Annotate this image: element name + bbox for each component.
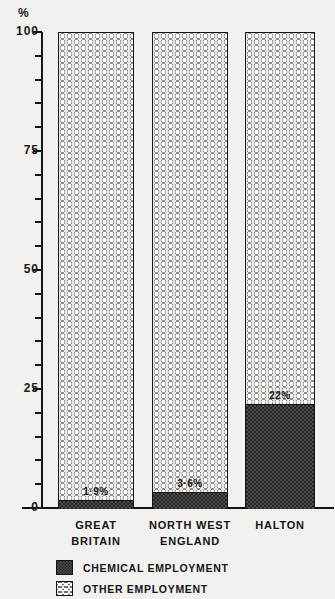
bar-north-west-england[interactable] bbox=[152, 32, 228, 508]
y-axis-minor-tick bbox=[35, 436, 42, 438]
x-axis-label-halton: HALTON bbox=[223, 517, 335, 533]
y-axis-minor-tick bbox=[35, 483, 42, 485]
y-axis-minor-tick bbox=[35, 174, 42, 176]
x-axis-label-line: HALTON bbox=[223, 517, 335, 533]
bars-plot-area: 1·9%3·6%22% bbox=[0, 0, 335, 599]
y-axis-minor-tick bbox=[35, 126, 42, 128]
y-axis-minor-tick bbox=[35, 102, 42, 104]
bar-halton[interactable] bbox=[245, 32, 315, 508]
x-axis-label-line: ENGLAND bbox=[130, 533, 250, 549]
bar-great-britain[interactable] bbox=[58, 32, 134, 508]
bar-value-label: 1·9% bbox=[58, 486, 134, 497]
legend-swatch-other-icon bbox=[56, 581, 73, 596]
bar-segment-chemical-employment[interactable] bbox=[153, 492, 227, 509]
legend-item-chemical-employment[interactable]: CHEMICAL EMPLOYMENT bbox=[56, 558, 229, 577]
legend-swatch-chemical-icon bbox=[56, 560, 73, 575]
y-axis-unit-label: % bbox=[18, 6, 29, 20]
y-axis-minor-tick bbox=[35, 79, 42, 81]
chart-legend: CHEMICAL EMPLOYMENT OTHER EMPLOYMENT bbox=[56, 558, 229, 599]
legend-label-other-employment: OTHER EMPLOYMENT bbox=[83, 583, 208, 595]
y-axis-minor-tick bbox=[35, 293, 42, 295]
y-axis-minor-tick bbox=[35, 245, 42, 247]
bar-segment-other-employment[interactable] bbox=[246, 33, 314, 404]
y-axis-minor-tick bbox=[35, 55, 42, 57]
y-axis-minor-tick bbox=[35, 364, 42, 366]
bar-value-label: 22% bbox=[245, 390, 315, 401]
y-axis-tick-label: 25 bbox=[24, 381, 39, 395]
bar-segment-chemical-employment[interactable] bbox=[246, 404, 314, 509]
y-axis-minor-tick bbox=[35, 459, 42, 461]
bar-segment-other-employment[interactable] bbox=[153, 33, 227, 492]
y-axis-tick-label: 100 bbox=[16, 24, 39, 38]
y-axis-tick-label: 0 bbox=[31, 500, 39, 514]
y-axis-tick-label: 75 bbox=[24, 143, 39, 157]
y-axis-tick-label: 50 bbox=[24, 262, 39, 276]
bar-segment-chemical-employment[interactable] bbox=[59, 500, 133, 509]
y-axis-minor-tick bbox=[35, 340, 42, 342]
y-axis-minor-tick bbox=[35, 412, 42, 414]
bar-segment-other-employment[interactable] bbox=[59, 33, 133, 500]
bar-value-label: 3·6% bbox=[152, 478, 228, 489]
y-axis-minor-tick bbox=[35, 317, 42, 319]
legend-item-other-employment[interactable]: OTHER EMPLOYMENT bbox=[56, 579, 229, 598]
y-axis-minor-tick bbox=[35, 198, 42, 200]
y-axis-minor-tick bbox=[35, 221, 42, 223]
chart-root: % 0255075100 1·9%3·6%22% GREATBRITAINNOR… bbox=[0, 0, 335, 599]
legend-label-chemical-employment: CHEMICAL EMPLOYMENT bbox=[83, 562, 229, 574]
